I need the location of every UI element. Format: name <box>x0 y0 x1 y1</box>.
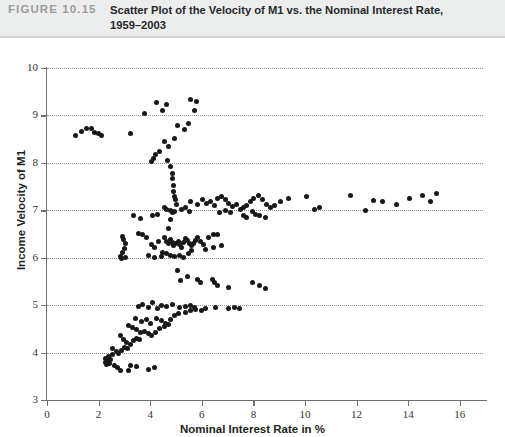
data-point <box>128 131 133 136</box>
data-point <box>394 202 399 207</box>
data-point <box>175 268 180 273</box>
data-point <box>194 99 199 104</box>
data-point <box>134 364 139 369</box>
data-point <box>211 245 216 250</box>
data-point <box>263 286 268 291</box>
data-point <box>183 304 188 309</box>
data-point <box>272 203 277 208</box>
data-point <box>160 108 165 113</box>
data-point <box>257 283 262 288</box>
data-point <box>166 226 171 231</box>
data-point <box>155 212 160 217</box>
data-point <box>237 306 242 311</box>
data-point <box>152 365 157 370</box>
data-point <box>118 368 123 373</box>
data-point <box>131 213 136 218</box>
data-point <box>199 308 204 313</box>
x-tick-label-8: 8 <box>238 408 268 420</box>
data-point <box>434 191 439 196</box>
data-point <box>250 280 255 285</box>
x-tick-label-4: 4 <box>135 408 165 420</box>
data-point <box>195 202 200 207</box>
data-point <box>188 199 193 204</box>
data-point <box>171 183 176 188</box>
data-point <box>170 176 175 181</box>
data-point <box>103 360 108 365</box>
data-point <box>198 280 203 285</box>
data-point <box>304 194 309 199</box>
data-point <box>181 255 186 260</box>
data-point <box>232 305 237 310</box>
figure-header-band: FIGURE 10.15 Scatter Plot of the Velocit… <box>0 0 505 38</box>
data-point <box>257 213 262 218</box>
data-point <box>172 136 177 141</box>
data-point <box>189 248 194 253</box>
data-point <box>380 199 385 204</box>
data-point <box>159 254 164 259</box>
figure-title-line-2: 1959–2003 <box>110 18 495 33</box>
x-tick-mark-14 <box>408 400 409 406</box>
x-tick-label-14: 14 <box>393 408 423 420</box>
data-point <box>172 209 177 214</box>
data-point <box>170 302 175 307</box>
data-point <box>278 199 283 204</box>
data-point <box>152 245 157 250</box>
x-tick-mark-12 <box>357 400 358 406</box>
data-point <box>428 199 433 204</box>
data-point <box>166 322 171 327</box>
data-point <box>420 193 425 198</box>
data-point <box>228 210 233 215</box>
scatter-chart: 345678910 0246810121416 Nominal Interest… <box>0 38 505 437</box>
data-point <box>371 198 376 203</box>
x-tick-label-16: 16 <box>445 408 475 420</box>
data-point <box>133 316 138 321</box>
data-point <box>146 305 151 310</box>
gridline-y-9 <box>47 115 483 116</box>
x-tick-mark-6 <box>202 400 203 406</box>
x-tick-mark-8 <box>253 400 254 406</box>
y-tick-label-10: 10 <box>8 61 38 73</box>
data-point <box>192 108 197 113</box>
data-point <box>263 215 268 220</box>
data-point <box>168 217 173 222</box>
data-point <box>185 274 190 279</box>
data-point <box>123 255 128 260</box>
data-point <box>126 368 131 373</box>
data-point <box>223 208 228 213</box>
data-point <box>176 311 181 316</box>
data-point <box>154 100 159 105</box>
x-tick-mark-10 <box>305 400 306 406</box>
data-point <box>178 278 183 283</box>
data-point <box>215 283 220 288</box>
data-point <box>166 144 171 149</box>
x-axis-line <box>46 400 487 401</box>
data-point <box>312 207 317 212</box>
data-point <box>407 196 412 201</box>
data-point <box>203 247 208 252</box>
data-point <box>193 307 198 312</box>
data-point <box>217 210 222 215</box>
data-point <box>219 243 224 248</box>
plot-region <box>47 68 483 400</box>
figure-page: FIGURE 10.15 Scatter Plot of the Velocit… <box>0 0 505 437</box>
gridline-y-8 <box>47 163 483 164</box>
data-point <box>150 213 155 218</box>
data-point <box>164 102 169 107</box>
data-point <box>137 337 142 342</box>
data-point <box>183 310 188 315</box>
data-point <box>213 305 218 310</box>
data-point <box>348 193 353 198</box>
data-point <box>188 97 193 102</box>
data-point <box>174 202 179 207</box>
y-tick-label-3: 3 <box>8 393 38 405</box>
gridline-y-6 <box>47 258 483 259</box>
x-tick-label-6: 6 <box>187 408 217 420</box>
data-point <box>152 255 157 260</box>
x-tick-mark-4 <box>150 400 151 406</box>
data-point <box>146 367 151 372</box>
data-point <box>188 308 193 313</box>
data-point <box>148 321 153 326</box>
data-point <box>99 133 104 138</box>
data-point <box>175 123 180 128</box>
y-axis-title: Income Velocity of M1 <box>15 85 27 335</box>
